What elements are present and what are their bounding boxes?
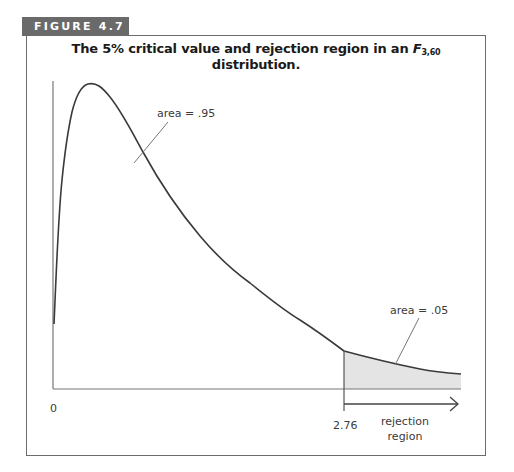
rejection-label-line2: region [388, 430, 423, 443]
area-95-label: area = .95 [157, 107, 215, 120]
density-curve [54, 84, 461, 374]
x-tick-zero: 0 [50, 402, 57, 415]
rejection-shaded-area [344, 351, 461, 389]
area-05-label: area = .05 [390, 304, 448, 317]
area-05-leader [395, 318, 419, 365]
area-95-leader [134, 122, 168, 163]
x-tick-critical: 2.76 [333, 419, 358, 432]
f-distribution-plot: area = .95 area = .05 0 2.76 rejection r… [0, 0, 514, 472]
rejection-label-line1: rejection [381, 415, 429, 428]
